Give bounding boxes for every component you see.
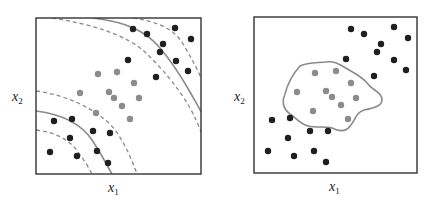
light-class-point	[348, 80, 354, 86]
dark-class-point	[67, 135, 73, 141]
panel-right: x1 x2	[233, 17, 417, 196]
dark-class-point	[90, 128, 96, 134]
data-points-left	[47, 25, 194, 166]
dark-class-point	[144, 31, 150, 37]
dark-class-point	[403, 67, 409, 73]
dark-class-point	[125, 57, 131, 63]
dark-class-point	[348, 26, 354, 32]
dark-class-point	[47, 149, 53, 155]
x2-axis-label-left: x2	[11, 89, 23, 106]
dark-class-point	[374, 49, 380, 55]
dark-class-point	[173, 58, 179, 64]
light-class-point	[312, 70, 318, 76]
light-class-point	[93, 110, 99, 116]
dark-class-point	[391, 57, 397, 63]
dark-class-point	[291, 153, 297, 159]
dark-class-point	[343, 56, 349, 62]
dark-class-point	[311, 148, 317, 154]
decision-boundaries-left	[36, 18, 201, 174]
x1-axis-label-left: x1	[107, 180, 119, 197]
plot-frame-right	[254, 17, 417, 173]
light-class-point	[329, 94, 335, 100]
dark-class-point	[94, 148, 100, 154]
dark-class-point	[405, 35, 411, 41]
light-class-point	[310, 108, 316, 114]
dark-class-point	[107, 130, 113, 136]
dark-class-point	[185, 68, 191, 74]
dark-class-point	[105, 160, 111, 166]
dark-class-point	[307, 128, 313, 134]
panel-left: x1 x2	[11, 18, 201, 197]
dark-class-point	[157, 49, 163, 55]
dark-class-point	[74, 153, 80, 159]
dark-class-point	[172, 25, 178, 31]
dark-class-point	[153, 74, 159, 80]
dark-class-point	[323, 159, 329, 165]
dark-class-point	[51, 118, 57, 124]
dark-class-point	[269, 117, 275, 123]
dashed-margin-upper-inner	[52, 18, 201, 132]
light-class-point	[345, 116, 351, 122]
light-class-point	[338, 102, 344, 108]
dark-class-point	[265, 148, 271, 154]
light-class-point	[294, 89, 300, 95]
dashed-margin-upper-outer	[133, 18, 201, 78]
light-class-point	[111, 95, 117, 101]
light-class-point	[353, 95, 359, 101]
dark-class-point	[361, 31, 367, 37]
dark-class-point	[188, 36, 194, 42]
dashed-margin-lower-outer	[36, 130, 92, 174]
light-class-point	[333, 68, 339, 74]
x1-axis-label-right: x1	[328, 179, 340, 196]
light-class-point	[323, 88, 329, 94]
light-class-point	[95, 71, 101, 77]
light-class-point	[114, 69, 120, 75]
light-class-point	[119, 103, 125, 109]
light-class-point	[127, 116, 133, 122]
diagram-canvas: x1 x2 x1 x2	[0, 0, 431, 202]
dark-class-point	[130, 26, 136, 32]
light-class-point	[77, 90, 83, 96]
x2-axis-label-right: x2	[233, 89, 245, 106]
plot-frame-left	[36, 18, 201, 174]
dark-class-point	[371, 73, 377, 79]
data-points-right	[265, 24, 411, 165]
dark-class-point	[69, 116, 75, 122]
dark-class-point	[391, 24, 397, 30]
dark-class-point	[287, 115, 293, 121]
dark-class-point	[160, 41, 166, 47]
light-class-point	[106, 89, 112, 95]
dark-class-point	[325, 128, 331, 134]
light-class-point	[136, 95, 142, 101]
dark-class-point	[285, 135, 291, 141]
dark-class-point	[378, 41, 384, 47]
light-class-point	[131, 80, 137, 86]
